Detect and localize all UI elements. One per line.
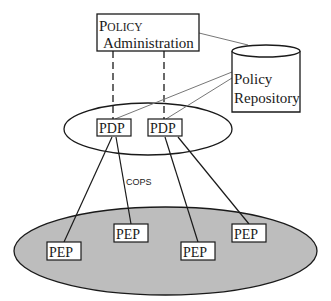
repository-label-line1: Policy (234, 71, 273, 87)
pep-label-4: PEP (234, 227, 258, 242)
cops-label: COPS (126, 177, 152, 187)
admin-label-line1: POLICY (99, 18, 143, 34)
pdp-label-1: PDP (99, 121, 125, 136)
policy-architecture-diagram: POLICY Administration Policy Repository … (0, 0, 331, 301)
pdp-label-2: PDP (150, 121, 176, 136)
repository-label-line2: Repository (234, 90, 300, 106)
admin-label-line2: Administration (103, 35, 194, 51)
pep-label-2: PEP (116, 227, 140, 242)
pep-label-1: PEP (49, 245, 73, 260)
pep-label-3: PEP (183, 245, 207, 260)
